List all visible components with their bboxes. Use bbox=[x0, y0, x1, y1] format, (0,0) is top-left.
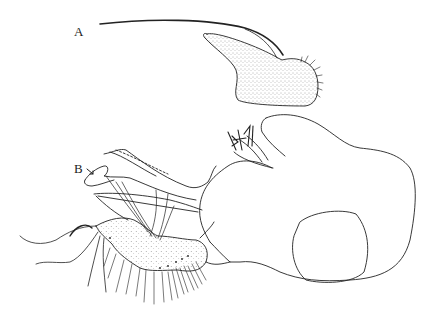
panel-a-drawing bbox=[100, 20, 323, 106]
panel-b-drawing bbox=[20, 115, 415, 304]
illustration-svg bbox=[0, 0, 431, 320]
figure: A B bbox=[0, 0, 431, 320]
